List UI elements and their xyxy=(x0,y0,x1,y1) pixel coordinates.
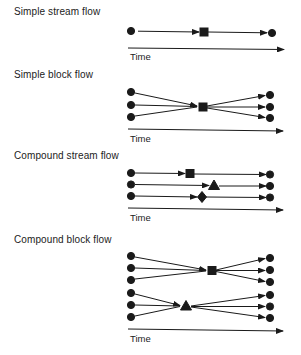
simple-block-flow xyxy=(127,88,283,131)
flow-diagram xyxy=(0,0,301,355)
triangle-operation-icon xyxy=(209,180,220,190)
diamond-operation-icon xyxy=(198,192,207,203)
simple-stream-flow xyxy=(127,27,284,49)
sink-dot-icon xyxy=(268,29,275,36)
time-arrow xyxy=(128,329,283,331)
square-operation-icon xyxy=(199,103,207,111)
square-operation-icon xyxy=(186,170,194,178)
time-arrow xyxy=(128,48,284,50)
time-arrow xyxy=(128,129,283,131)
square-operation-icon xyxy=(208,267,216,275)
source-dot-icon xyxy=(127,27,134,34)
compound-block-flow xyxy=(127,252,283,331)
compound-stream-flow xyxy=(127,169,283,210)
triangle-operation-icon xyxy=(181,301,192,311)
square-operation-icon xyxy=(200,28,208,36)
time-arrow xyxy=(128,208,283,210)
